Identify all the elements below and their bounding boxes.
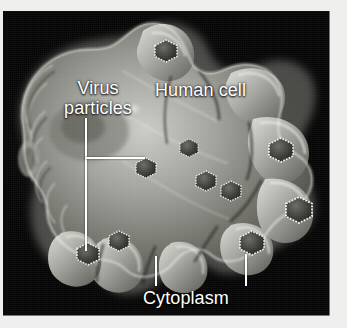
micrograph-plate [3, 11, 330, 316]
cell-illustration [3, 11, 330, 316]
virus-particle [240, 231, 264, 255]
specular-flare [107, 104, 139, 114]
virus-particle [269, 138, 293, 162]
figure-micrograph: Virus particles Human cell Cytoplasm [0, 0, 347, 328]
dense-mass-core [61, 111, 105, 143]
